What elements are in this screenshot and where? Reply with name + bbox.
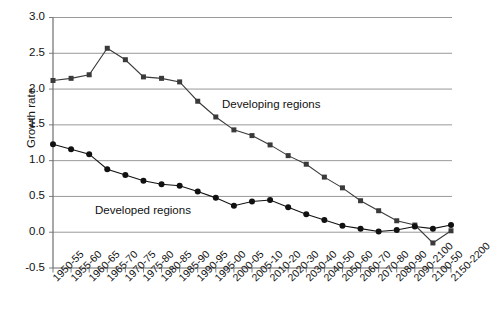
data-point [50,141,56,147]
data-point [213,114,218,119]
data-point [268,142,273,147]
data-point [394,227,400,233]
data-point [104,166,110,172]
data-point [376,229,382,235]
chart-container: Growth rate 3.02.52.01.51.00.50.0-0.5 19… [0,0,501,331]
data-point [141,74,146,79]
data-point [430,240,435,245]
data-point [159,76,164,81]
data-point [322,175,327,180]
data-point [87,72,92,77]
data-point [51,78,56,83]
data-point [177,79,182,84]
data-point [195,99,200,104]
data-point [358,198,363,203]
data-point [69,76,74,81]
data-point [105,46,110,51]
y-tick-label: 1.5 [11,117,45,129]
data-point [321,217,327,223]
data-point [394,218,399,223]
data-point [68,146,74,152]
data-point [267,197,273,203]
data-point [448,222,454,228]
data-point [122,172,128,178]
data-point [159,181,165,187]
data-point [303,211,309,217]
data-point [304,162,309,167]
data-point [285,204,291,210]
data-point [177,183,183,189]
data-point [123,57,128,62]
y-tick-label: 0.0 [11,225,45,237]
y-tick-label: -0.5 [11,261,45,273]
data-point [358,226,364,232]
data-point [286,153,291,158]
data-point [231,127,236,132]
data-point [376,208,381,213]
data-point [430,226,436,232]
data-point [449,228,454,233]
y-tick-label: 1.0 [11,153,45,165]
series-line-2 [53,144,451,231]
data-point [340,185,345,190]
y-tick-label: 2.0 [11,82,45,94]
y-tick-label: 2.5 [11,46,45,58]
data-point [231,203,237,209]
y-tick-label: 3.0 [11,10,45,22]
data-point [86,151,92,157]
data-point [249,198,255,204]
data-point [140,178,146,184]
data-point [195,188,201,194]
data-point [339,223,345,229]
data-point [250,133,255,138]
y-tick-label: 0.5 [11,189,45,201]
series-annotation: Developed regions [95,204,191,216]
series-annotation: Developing regions [222,98,320,110]
data-point [412,223,418,229]
data-point [213,195,219,201]
